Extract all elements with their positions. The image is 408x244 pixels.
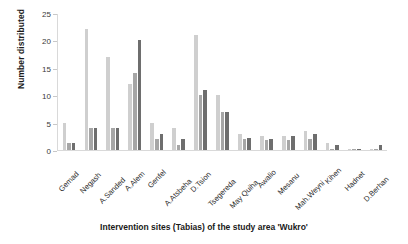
- bar-group: [212, 14, 234, 150]
- x-axis-title: Intervention sites (Tabias) of the study…: [0, 222, 408, 232]
- x-tick-label: Kihen: [323, 166, 343, 186]
- x-tick-label: Mah.Weyni: [293, 179, 326, 212]
- x-tick-label: A.Sanded: [97, 176, 127, 206]
- bar: [304, 131, 308, 150]
- y-tick-label: 15: [42, 64, 51, 73]
- x-axis-tick-labels: GemadNegashA.SandedA.AlemGenfelA.Atsbeha…: [58, 152, 388, 208]
- bar: [243, 139, 247, 150]
- bar: [155, 139, 159, 150]
- bar: [63, 123, 67, 150]
- bar: [133, 73, 137, 150]
- bar-group: [124, 14, 146, 150]
- bar: [221, 112, 225, 150]
- bar: [348, 149, 352, 150]
- y-tick-label: 5: [47, 119, 51, 128]
- bar: [265, 140, 269, 150]
- bar: [177, 145, 181, 150]
- bar: [67, 143, 71, 150]
- bar-group: [255, 14, 277, 150]
- bar: [291, 136, 295, 150]
- x-tick-label: Awalio: [256, 168, 278, 190]
- bar: [238, 134, 242, 150]
- bar: [247, 138, 251, 150]
- y-tick-mark: [53, 151, 57, 152]
- bar-groups: [58, 14, 387, 150]
- bar-group: [365, 14, 387, 150]
- bar: [374, 149, 378, 150]
- y-tick-mark: [53, 14, 57, 15]
- bar: [111, 128, 115, 150]
- y-tick-mark: [53, 124, 57, 125]
- plot-area: 0510152025: [57, 14, 387, 151]
- bar: [287, 140, 291, 150]
- y-tick-label: 25: [42, 10, 51, 19]
- bar: [216, 95, 220, 150]
- bar: [116, 128, 120, 150]
- bar: [335, 145, 339, 150]
- bar: [326, 143, 330, 150]
- bar: [203, 90, 207, 150]
- y-tick-mark: [53, 96, 57, 97]
- bar: [94, 128, 98, 150]
- x-tick-label: A.Alem: [123, 169, 147, 193]
- bar: [106, 57, 110, 150]
- y-tick-label: 10: [42, 92, 51, 101]
- bar: [72, 143, 76, 150]
- bar: [89, 128, 93, 150]
- x-axis-line: [57, 150, 387, 151]
- y-tick-label: 20: [42, 37, 51, 46]
- bar: [352, 149, 356, 150]
- bar-group: [146, 14, 168, 150]
- bar-group: [190, 14, 212, 150]
- bar: [308, 139, 312, 150]
- y-tick-label: 0: [47, 147, 51, 156]
- bar: [172, 128, 176, 150]
- x-tick-label: Negash: [78, 171, 103, 196]
- bar-group: [168, 14, 190, 150]
- bar-group: [299, 14, 321, 150]
- bar: [199, 95, 203, 150]
- x-tick-label: Hadnet: [343, 169, 367, 193]
- x-tick-label: A.Atsbeha: [162, 177, 193, 208]
- bar: [379, 145, 383, 150]
- bar-group: [321, 14, 343, 150]
- x-tick-label: D.Berhan: [362, 175, 391, 204]
- bar: [225, 112, 229, 150]
- bar-group: [58, 14, 80, 150]
- bar: [370, 149, 374, 150]
- bar: [128, 84, 132, 150]
- x-tick-label: Mesanu: [276, 171, 301, 196]
- bar: [330, 149, 334, 150]
- x-tick-label: Gemad: [57, 170, 81, 194]
- bar: [138, 40, 142, 150]
- bar-group: [234, 14, 256, 150]
- bar: [150, 123, 154, 150]
- bar-group: [102, 14, 124, 150]
- bar: [269, 139, 273, 150]
- y-axis-title: Number distributed: [16, 0, 26, 114]
- bar-group: [343, 14, 365, 150]
- y-tick-mark: [53, 69, 57, 70]
- bar-group: [80, 14, 102, 150]
- bar-group: [277, 14, 299, 150]
- bar: [181, 139, 185, 150]
- bar: [194, 35, 198, 150]
- y-tick-mark: [53, 41, 57, 42]
- x-tick-label: Genfel: [146, 168, 168, 190]
- bar: [85, 29, 89, 150]
- bar: [260, 136, 264, 150]
- bar: [282, 136, 286, 150]
- bar: [160, 134, 164, 150]
- bar: [357, 149, 361, 150]
- bar: [313, 134, 317, 150]
- bar-chart-figure: Number distributed 0510152025 GemadNegas…: [0, 0, 408, 244]
